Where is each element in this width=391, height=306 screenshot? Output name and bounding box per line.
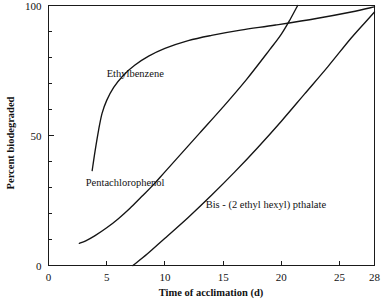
y-axis-title: Percent biodegraded: [5, 96, 16, 189]
x-tick-label-10: 10: [159, 271, 171, 283]
x-tick-label-25: 25: [334, 271, 346, 283]
x-tick-label-20: 20: [276, 271, 288, 283]
chart-background: [0, 0, 391, 306]
y-tick-label-100: 100: [25, 0, 42, 12]
x-tick-label-5: 5: [104, 271, 110, 283]
series-label-2: Bis - (2 ethyl hexyl) pthalate: [206, 199, 327, 211]
biodegradation-line-chart: 050100 051015202528 EthylbenzenePentachl…: [0, 0, 391, 306]
y-tick-label-0: 0: [36, 260, 42, 272]
series-label-0: Ethylbenzene: [107, 68, 164, 79]
x-tick-label-28: 28: [369, 271, 381, 283]
chart-figure: 050100 051015202528 EthylbenzenePentachl…: [0, 0, 391, 306]
x-tick-label-0: 0: [46, 271, 52, 283]
x-tick-label-15: 15: [218, 271, 230, 283]
x-axis-title: Time of acclimation (d): [159, 287, 264, 299]
y-tick-label-50: 50: [31, 130, 43, 142]
series-label-1: Pentachlorophenol: [86, 177, 165, 188]
